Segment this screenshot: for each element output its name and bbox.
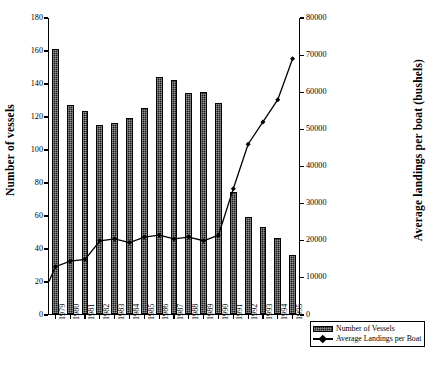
x-axis-tick (129, 315, 130, 319)
y-axis-left-tick-label: 60 (35, 212, 43, 220)
y-axis-right-title: Average landings per boat (bushels) (408, 0, 428, 300)
x-axis-tick (144, 315, 145, 319)
line-marker (53, 264, 58, 269)
x-axis-tick (173, 315, 174, 319)
line-marker (201, 238, 206, 243)
y-axis-right-tick-label: 50000 (306, 125, 326, 133)
y-axis-right-tick (300, 277, 304, 278)
legend-item-average-landings-per-boat: Average Landings per Boat (313, 334, 421, 344)
y-axis-left-tick-label: 180 (31, 14, 43, 22)
line-marker (157, 233, 162, 238)
y-axis-right-tick (300, 166, 304, 167)
y-axis-left-title-text: Number of vessels (4, 104, 16, 196)
line-path (49, 59, 293, 282)
x-axis-tick (70, 315, 71, 319)
x-axis-tick (218, 315, 219, 319)
x-axis-tick (99, 315, 100, 319)
line-marker (68, 259, 73, 264)
chart-legend: Number of Vessels Average Landings per B… (310, 321, 425, 347)
y-axis-left-tick-label: 40 (35, 245, 43, 253)
y-axis-right-tick (300, 240, 304, 241)
y-axis-left-tick-label: 100 (31, 146, 43, 154)
y-axis-right-tick-label: 20000 (306, 236, 326, 244)
y-axis-right-tick (300, 203, 304, 204)
chart-container: Number of vessels Average landings per b… (0, 0, 445, 378)
y-axis-right-tick (300, 55, 304, 56)
y-axis-right-tick-label: 70000 (306, 51, 326, 59)
y-axis-right-tick-label: 0 (306, 311, 310, 319)
y-axis-right-tick (300, 129, 304, 130)
line-marker (127, 240, 132, 245)
x-axis-tick (203, 315, 204, 319)
y-axis-right-tick-label: 40000 (306, 162, 326, 170)
x-axis-tick (248, 315, 249, 319)
y-axis-left-tick-label: 20 (35, 278, 43, 286)
line-marker (172, 236, 177, 241)
legend-line-diamond-icon (313, 335, 333, 343)
y-axis-right-tick-label: 10000 (306, 273, 326, 281)
line-marker (186, 235, 191, 240)
legend-label-average-landings-per-boat: Average Landings per Boat (336, 335, 421, 343)
plot-area: 020406080100120140160180 010000200003000… (48, 18, 300, 315)
x-axis-tick (55, 315, 56, 319)
x-axis-tick (159, 315, 160, 319)
y-axis-left-tick-label: 80 (35, 179, 43, 187)
y-axis-left-tick-label: 160 (31, 47, 43, 55)
x-axis-tick (262, 315, 263, 319)
line-marker (231, 186, 236, 191)
x-axis-tick (84, 315, 85, 319)
line-marker (290, 56, 295, 61)
y-axis-left-title: Number of vessels (0, 0, 20, 300)
line-marker (112, 236, 117, 241)
x-axis-tick (277, 315, 278, 319)
line-marker (216, 233, 221, 238)
y-axis-right-tick-label: 60000 (306, 88, 326, 96)
legend-item-number-of-vessels: Number of Vessels (313, 324, 421, 334)
y-axis-left-tick-label: 120 (31, 113, 43, 121)
y-axis-right-tick-label: 80000 (306, 14, 326, 22)
x-axis-tick (292, 315, 293, 319)
line-markers (53, 56, 295, 269)
legend-label-number-of-vessels: Number of Vessels (336, 325, 395, 333)
y-axis-right-tick (300, 92, 304, 93)
x-axis-tick (233, 315, 234, 319)
y-axis-right-tick (300, 17, 304, 18)
x-axis-tick (188, 315, 189, 319)
line-marker (142, 235, 147, 240)
y-axis-left-tick-label: 0 (39, 311, 43, 319)
line-series-average-landings-per-boat (48, 18, 300, 315)
legend-bar-swatch-icon (313, 326, 333, 332)
y-axis-left-tick-label: 140 (31, 80, 43, 88)
y-axis-right-tick-label: 30000 (306, 199, 326, 207)
y-axis-right-title-text: Average landings per boat (bushels) (412, 59, 424, 241)
x-axis-tick (114, 315, 115, 319)
